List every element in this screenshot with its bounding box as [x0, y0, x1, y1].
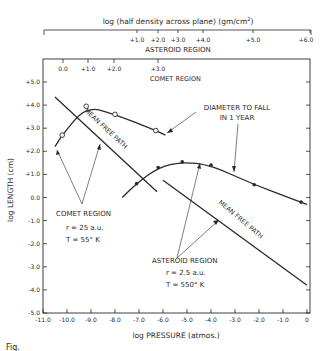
y-axis-label: log LENGTH (cm): [6, 158, 15, 222]
mfp-label-asteroid: MEAN FREE PATH: [217, 198, 265, 240]
y-tick-label: +3.0: [25, 124, 40, 131]
filled-circle-marker: [156, 166, 160, 170]
x-axis-label: log PRESSURE (atmos.): [132, 331, 219, 340]
figure-caption: Fig.: [6, 343, 20, 351]
y-tick-label: -1.0: [28, 217, 40, 224]
open-circle-marker: [154, 128, 159, 133]
x-tick-label: -7.0: [133, 316, 145, 323]
y-tick-label: -2.0: [28, 240, 40, 247]
x-tick-label: -2.0: [253, 316, 265, 323]
diameter-label-2: IN 1 YEAR: [220, 114, 255, 122]
comet-tick-label: 0.0: [58, 65, 68, 72]
diameter-label: DIAMETER TO FALL: [204, 104, 271, 112]
filled-circle-marker: [252, 183, 256, 187]
x-axis-ticks: -11.0-10.0-9.0-8.0-7.0-6.0-5.0-4.0-3.0-2…: [35, 309, 309, 323]
comet-tick-label: +3.0: [151, 65, 166, 72]
top-tick-label: +6.0: [299, 36, 314, 43]
x-tick-label: -11.0: [35, 316, 51, 323]
top-axis-title: log (half density across plane) (gm/cm2): [103, 16, 254, 26]
top-region-label: ASTEROID REGION: [145, 46, 211, 54]
top-tick-label: +2.0: [151, 36, 166, 43]
x-tick-label: -5.0: [181, 316, 193, 323]
comet-axis-region-label: COMET REGION: [150, 75, 201, 83]
y-tick-label: -4.0: [28, 286, 40, 293]
comet-tick-label: +2.0: [107, 65, 122, 72]
y-tick-label: +4.0: [25, 101, 40, 108]
comet-T: T = 55° K: [65, 236, 100, 244]
filled-circle-marker: [209, 163, 213, 167]
y-tick-label: +2.0: [25, 147, 40, 154]
top-tick-label: +5.0: [246, 36, 261, 43]
filled-circle-marker: [180, 160, 184, 164]
filled-circle-marker: [135, 182, 139, 186]
comet-axis-ticks: 0.0+1.0+2.0+3.0: [58, 59, 165, 72]
series-line: [122, 163, 307, 205]
comet-r: r = 25 a.u.: [66, 224, 104, 232]
top-axis: [44, 30, 311, 35]
top-axis-ticks: +1.0+2.0+3.0+4.0+5.0+6.0: [130, 36, 314, 43]
y-tick-label: 0.0: [30, 194, 40, 201]
x-tick-label: -9.0: [85, 316, 97, 323]
y-tick-label: -5.0: [28, 309, 40, 316]
x-tick-label: -6.0: [157, 316, 169, 323]
top-tick-label: +3.0: [171, 36, 186, 43]
x-tick-label: -8.0: [109, 316, 121, 323]
y-tick-label: +5.0: [25, 78, 40, 85]
asteroid-r: r = 2.5 a.u.: [166, 269, 206, 277]
open-circle-marker: [60, 133, 65, 138]
top-tick-label: +1.0: [130, 36, 145, 43]
x-tick-label: -4.0: [205, 316, 217, 323]
y-tick-label: -3.0: [28, 263, 40, 270]
x-tick-label: -1.0: [277, 316, 289, 323]
filled-circle-marker: [299, 200, 303, 204]
comet-tick-label: +1.0: [81, 65, 96, 72]
x-tick-label: 0: [305, 316, 309, 323]
asteroid-region-label: ASTEROID REGION: [152, 257, 218, 265]
chart: log (half density across plane) (gm/cm2)…: [0, 0, 323, 351]
x-tick-label: -10.0: [59, 316, 75, 323]
x-tick-label: -3.0: [229, 316, 241, 323]
y-tick-label: +1.0: [25, 170, 40, 177]
asteroid-T: T = 550° K: [165, 281, 205, 289]
top-tick-label: +4.0: [196, 36, 211, 43]
comet-region-label: COMET REGION: [56, 210, 111, 218]
open-circle-marker: [113, 112, 118, 117]
